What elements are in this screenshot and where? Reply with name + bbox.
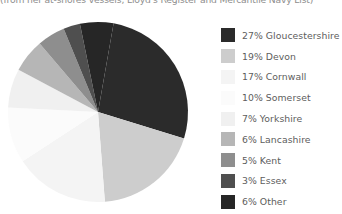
legend-item-label: 5% Kent xyxy=(242,155,281,166)
legend-item[interactable]: 19% Devon xyxy=(221,46,342,67)
legend-item-label: 10% Somerset xyxy=(242,92,311,103)
legend-item-label: 7% Yorkshire xyxy=(242,113,302,124)
legend-item[interactable]: 5% Kent xyxy=(221,150,342,171)
legend-color-swatch xyxy=(221,91,235,105)
legend-item[interactable]: 7% Yorkshire xyxy=(221,108,342,129)
legend-item-label: 17% Cornwall xyxy=(242,71,306,82)
legend-item-label: 6% Other xyxy=(242,196,287,207)
legend-color-swatch xyxy=(221,132,235,146)
chart-legend: 27% Gloucestershire19% Devon17% Cornwall… xyxy=(221,25,342,212)
legend-color-swatch xyxy=(221,28,235,42)
legend-color-swatch xyxy=(221,112,235,126)
legend-color-swatch xyxy=(221,195,235,209)
legend-item-label: 3% Essex xyxy=(242,175,287,186)
legend-color-swatch xyxy=(221,153,235,167)
legend-item[interactable]: 27% Gloucestershire xyxy=(221,25,342,46)
pie-chart xyxy=(0,8,215,214)
legend-item[interactable]: 6% Other xyxy=(221,191,342,212)
legend-item[interactable]: 6% Lancashire xyxy=(221,129,342,150)
pie-slice-group xyxy=(8,22,188,202)
legend-color-swatch xyxy=(221,70,235,84)
legend-item-label: 19% Devon xyxy=(242,51,296,62)
legend-color-swatch xyxy=(221,49,235,63)
pie-chart-svg xyxy=(0,8,215,214)
legend-item-label: 27% Gloucestershire xyxy=(242,30,339,41)
legend-item[interactable]: 17% Cornwall xyxy=(221,67,342,88)
legend-item[interactable]: 10% Somerset xyxy=(221,87,342,108)
legend-color-swatch xyxy=(221,174,235,188)
legend-item-label: 6% Lancashire xyxy=(242,134,311,145)
legend-item[interactable]: 3% Essex xyxy=(221,171,342,192)
chart-source-caption: (from her at-shores vessels, Lloyd's Reg… xyxy=(0,0,342,7)
